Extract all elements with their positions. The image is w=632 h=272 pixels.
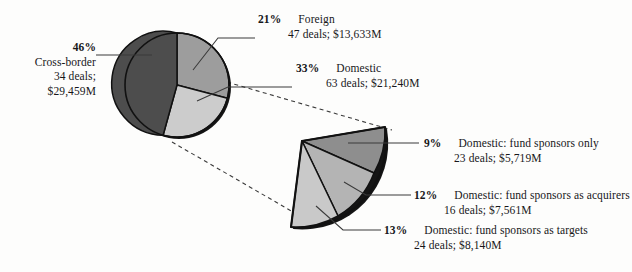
label-sponsors-targets-detail: 24 deals; $8,140M xyxy=(414,239,502,251)
label-sponsors-only-percent: 9% xyxy=(424,137,441,149)
label-domestic: 33%Domestic 63 deals; $21,240M xyxy=(296,61,419,90)
label-foreign-percent: 21% xyxy=(258,13,281,25)
label-sponsors-acquirers: 12%Domestic: fund sponsors as acquirers … xyxy=(414,188,630,217)
domestic-breakout-pie xyxy=(291,127,388,229)
label-sponsors-targets: 13%Domestic: fund sponsors as targets 24… xyxy=(384,223,588,252)
main-pie xyxy=(112,31,231,139)
label-sponsors-acquirers-percent: 12% xyxy=(414,189,437,201)
label-cross-border-amount: $29,459M xyxy=(0,84,96,99)
label-sponsors-only-detail: 23 deals; $5,719M xyxy=(454,152,542,164)
label-foreign-detail: 47 deals; $13,633M xyxy=(288,28,381,40)
label-sponsors-acquirers-detail: 16 deals; $7,561M xyxy=(444,204,532,216)
label-sponsors-only-name: Domestic: fund sponsors only xyxy=(458,137,598,149)
label-cross-border-percent: 46% xyxy=(0,40,96,55)
chart-figure: 46% Cross-border 34 deals; $29,459M 21%F… xyxy=(0,0,632,272)
label-domestic-percent: 33% xyxy=(296,62,319,74)
label-sponsors-only: 9%Domestic: fund sponsors only 23 deals;… xyxy=(424,136,599,165)
label-domestic-name: Domestic xyxy=(336,62,381,74)
main-pie-slice-cross-border xyxy=(112,31,177,135)
label-cross-border-name: Cross-border xyxy=(0,55,96,70)
label-cross-border-deals: 34 deals; xyxy=(0,69,96,84)
label-sponsors-acquirers-name: Domestic: fund sponsors as acquirers xyxy=(454,189,629,201)
label-foreign: 21%Foreign 47 deals; $13,633M xyxy=(258,12,381,41)
label-sponsors-targets-percent: 13% xyxy=(384,224,407,236)
label-domestic-detail: 63 deals; $21,240M xyxy=(326,77,419,89)
label-foreign-name: Foreign xyxy=(298,13,334,25)
label-cross-border: 46% Cross-border 34 deals; $29,459M xyxy=(0,40,96,98)
explosion-connector-lower xyxy=(172,142,300,216)
label-sponsors-targets-name: Domestic: fund sponsors as targets xyxy=(424,224,588,236)
